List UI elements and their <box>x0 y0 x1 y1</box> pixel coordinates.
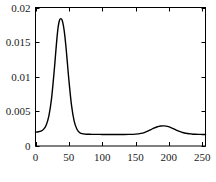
y-tick-label: 0.01 <box>11 71 30 82</box>
y-tick-label: 0.005 <box>6 106 31 117</box>
x-tick-label: 50 <box>63 152 74 163</box>
x-tick-label: 200 <box>161 152 178 163</box>
x-tick-label: 250 <box>194 152 211 163</box>
chart-figure: 00.0050.010.0150.02 050100150200250 <box>0 0 216 182</box>
y-tick-label: 0 <box>25 141 31 152</box>
x-tick-label: 150 <box>127 152 144 163</box>
y-tick-label: 0.02 <box>11 2 30 13</box>
x-tick-label: 0 <box>33 152 39 163</box>
y-tick-label: 0.015 <box>6 37 31 48</box>
axes-frame <box>36 8 206 147</box>
x-tick-label: 100 <box>94 152 111 163</box>
